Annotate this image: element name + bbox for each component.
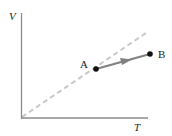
y-axis-label: V [9,10,17,22]
point-b-label: B [158,48,165,60]
vt-diagram: V T A B [0,0,172,136]
point-a-label: A [80,58,88,70]
dashed-reference-line [22,33,146,117]
point-a [93,66,99,72]
x-axis-label: T [134,121,141,133]
point-b [147,51,153,57]
